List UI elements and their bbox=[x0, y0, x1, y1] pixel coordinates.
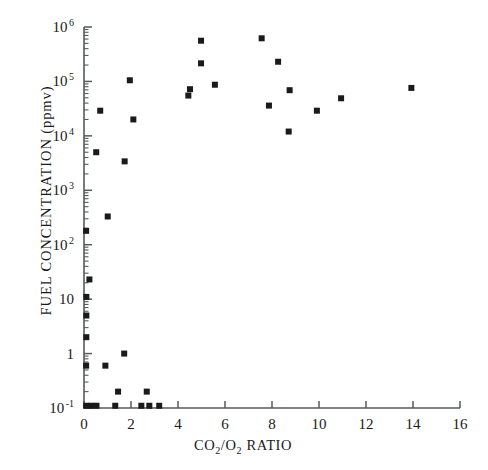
y-tick-label: 104 bbox=[53, 126, 75, 144]
data-point bbox=[287, 87, 293, 93]
data-points-group bbox=[83, 35, 414, 408]
data-point bbox=[130, 116, 136, 122]
data-point bbox=[93, 403, 99, 409]
y-tick-label: 1 bbox=[67, 346, 75, 362]
y-tick-label: 102 bbox=[53, 235, 75, 253]
data-point bbox=[83, 228, 89, 234]
data-point bbox=[138, 403, 144, 409]
data-point bbox=[266, 103, 272, 109]
y-tick-label: 10 bbox=[59, 291, 74, 307]
y-tick-label: 106 bbox=[53, 17, 75, 35]
x-axis-title: CO2/O2 RATIO bbox=[194, 437, 292, 456]
data-point bbox=[314, 108, 320, 114]
data-point bbox=[105, 213, 111, 219]
data-point bbox=[86, 276, 92, 282]
data-point bbox=[97, 108, 103, 114]
x-tick-label: 0 bbox=[80, 416, 88, 432]
x-tick-label: 6 bbox=[221, 416, 229, 432]
data-point bbox=[259, 35, 265, 41]
data-point bbox=[115, 389, 121, 395]
data-point bbox=[121, 351, 127, 357]
data-point bbox=[122, 158, 128, 164]
x-tick-label: 12 bbox=[359, 416, 374, 432]
data-point bbox=[83, 313, 89, 319]
data-point bbox=[83, 363, 89, 369]
x-tick-label: 4 bbox=[174, 416, 182, 432]
data-point bbox=[112, 403, 118, 409]
x-tick-label: 16 bbox=[453, 416, 469, 432]
y-tick-label: 105 bbox=[53, 71, 75, 89]
data-point bbox=[88, 403, 94, 409]
data-point bbox=[275, 59, 281, 65]
data-point bbox=[93, 149, 99, 155]
data-point bbox=[212, 82, 218, 88]
data-point bbox=[198, 60, 204, 66]
data-point bbox=[156, 403, 162, 409]
data-point bbox=[127, 77, 133, 83]
data-point bbox=[146, 403, 152, 409]
data-point bbox=[83, 294, 89, 300]
data-point bbox=[286, 129, 292, 135]
x-tick-label: 10 bbox=[312, 416, 327, 432]
data-point bbox=[338, 95, 344, 101]
x-tick-label: 2 bbox=[127, 416, 135, 432]
data-point bbox=[83, 403, 89, 409]
axes-group bbox=[84, 27, 460, 408]
scatter-plot-figure: FUEL CONCENTRATION (ppmv) 02468101214161… bbox=[0, 0, 488, 470]
data-point bbox=[83, 334, 89, 340]
x-tick-label: 8 bbox=[268, 416, 276, 432]
data-point bbox=[187, 86, 193, 92]
data-point bbox=[408, 85, 414, 91]
data-point bbox=[185, 93, 191, 99]
data-point bbox=[102, 363, 108, 369]
x-tick-label: 14 bbox=[406, 416, 422, 432]
data-point bbox=[144, 389, 150, 395]
y-tick-label: 103 bbox=[53, 180, 75, 198]
plot-canvas: 024681012141610-1110102103104105106 CO2/… bbox=[0, 0, 488, 470]
y-tick-label: 10-1 bbox=[49, 398, 74, 416]
data-point bbox=[198, 38, 204, 44]
tick-labels-group: 024681012141610-1110102103104105106 bbox=[49, 17, 468, 432]
